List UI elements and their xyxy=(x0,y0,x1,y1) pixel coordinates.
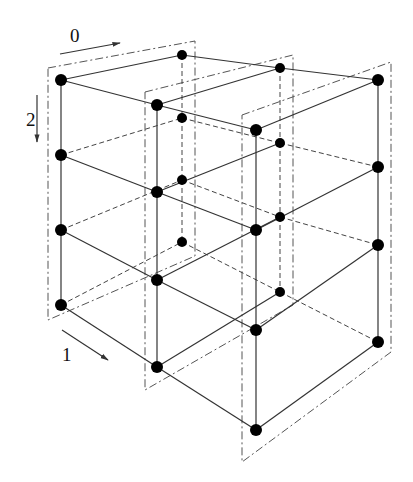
grid-node xyxy=(177,237,187,247)
plane-frames xyxy=(48,41,391,462)
grid-node xyxy=(151,274,163,286)
edge-top xyxy=(61,55,182,80)
axis-indicators: 0 1 2 xyxy=(26,25,120,365)
edge-depth-hidden xyxy=(182,242,280,292)
edge-row-hidden xyxy=(61,118,182,155)
grid-node xyxy=(250,124,262,136)
edge-depth xyxy=(61,230,157,280)
grid-node xyxy=(250,224,262,236)
grid-node xyxy=(250,324,262,336)
grid-node xyxy=(55,299,67,311)
grid-node xyxy=(55,224,67,236)
edge-depth xyxy=(61,305,157,367)
grid-node xyxy=(250,424,262,436)
edge-depth xyxy=(61,80,157,105)
grid-node xyxy=(275,287,285,297)
edge-row xyxy=(157,217,280,280)
grid-diagram: 0 1 2 xyxy=(0,0,413,482)
edge-depth-hidden xyxy=(280,143,378,167)
hidden-edges xyxy=(61,55,378,342)
visible-edges xyxy=(61,55,378,430)
grid-nodes xyxy=(55,50,384,436)
edge-row-hidden xyxy=(61,180,182,230)
grid-node xyxy=(372,239,384,251)
grid-node xyxy=(177,50,187,60)
edge-row xyxy=(256,342,378,430)
edge-depth xyxy=(157,192,256,230)
grid-node xyxy=(151,186,163,198)
axis-label-1: 1 xyxy=(62,344,72,365)
edge-row xyxy=(256,245,378,330)
edge-depth xyxy=(157,105,256,130)
axis-label-0: 0 xyxy=(70,25,80,46)
edge-row-hidden xyxy=(61,242,182,305)
grid-node xyxy=(372,74,384,86)
grid-node xyxy=(151,99,163,111)
edge-top xyxy=(256,80,378,130)
edge-depth-hidden xyxy=(280,292,378,342)
grid-node xyxy=(177,113,187,123)
grid-node xyxy=(55,74,67,86)
grid-node xyxy=(372,336,384,348)
plane-j2-frame xyxy=(242,62,391,462)
grid-node xyxy=(55,149,67,161)
axis-0-arrow xyxy=(60,43,120,54)
edge-depth-hidden xyxy=(280,217,378,245)
axis-label-2: 2 xyxy=(26,109,36,130)
edge-depth-top xyxy=(280,68,378,80)
edge-depth xyxy=(157,280,256,330)
edge-row xyxy=(157,143,280,192)
edge-depth-hidden xyxy=(182,118,280,143)
edge-depth-hidden xyxy=(182,180,280,217)
grid-node xyxy=(372,161,384,173)
grid-node xyxy=(151,361,163,373)
grid-node xyxy=(177,175,187,185)
grid-node xyxy=(275,138,285,148)
edge-depth xyxy=(61,155,157,192)
grid-node xyxy=(275,212,285,222)
grid-node xyxy=(275,63,285,73)
edge-depth xyxy=(157,367,256,430)
